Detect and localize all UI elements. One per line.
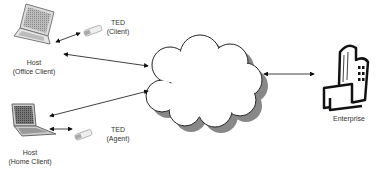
office-laptop-icon	[14, 4, 54, 44]
office-host-label: Host (Office Client)	[12, 58, 56, 76]
connector-office-host-cloud	[64, 54, 148, 66]
home-ted-label: TED (Agent)	[104, 125, 132, 143]
home-laptop-icon	[12, 104, 56, 136]
home-ted-label-line1: TED	[104, 125, 132, 134]
office-ted-label-line2: (Client)	[104, 27, 132, 36]
office-ted-label-line1: TED	[104, 18, 132, 27]
office-ted-usb-icon	[83, 25, 102, 37]
cloud-icon	[146, 35, 268, 133]
home-host-label-line2: (Home Client)	[8, 157, 52, 166]
connector-office-host-ted	[56, 33, 80, 42]
connector-home-host-cloud	[50, 91, 148, 116]
office-ted-label: TED (Client)	[104, 18, 132, 36]
network-diagram	[0, 0, 392, 170]
home-host-label-line1: Host	[8, 148, 52, 157]
enterprise-building-icon	[324, 46, 368, 110]
office-host-label-line2: (Office Client)	[12, 67, 56, 76]
home-ted-label-line2: (Agent)	[104, 134, 132, 143]
home-ted-usb-icon	[74, 129, 92, 140]
home-host-label: Host (Home Client)	[8, 148, 52, 166]
office-host-label-line1: Host	[12, 58, 56, 67]
enterprise-label: Enterprise	[326, 114, 372, 123]
